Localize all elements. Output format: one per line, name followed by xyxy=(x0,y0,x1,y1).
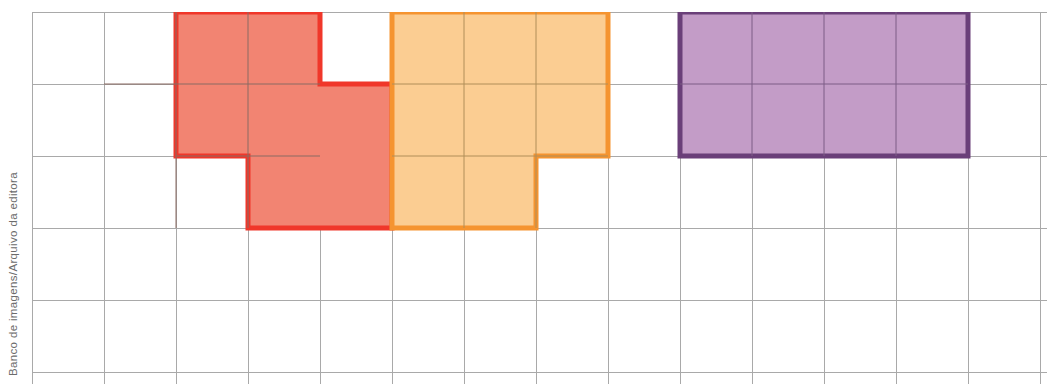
image-credit-label: Banco de imagens/Arquivo da editora xyxy=(0,0,26,384)
red-shape[interactable] xyxy=(104,12,392,228)
purple-shape[interactable] xyxy=(680,12,968,156)
red-shape-outline xyxy=(176,12,392,228)
grid-canvas xyxy=(32,12,1047,384)
shapes-layer xyxy=(32,12,1047,384)
orange-shape-outline xyxy=(392,12,608,228)
orange-shape[interactable] xyxy=(392,12,608,228)
figure-root: Banco de imagens/Arquivo da editora xyxy=(0,0,1047,384)
